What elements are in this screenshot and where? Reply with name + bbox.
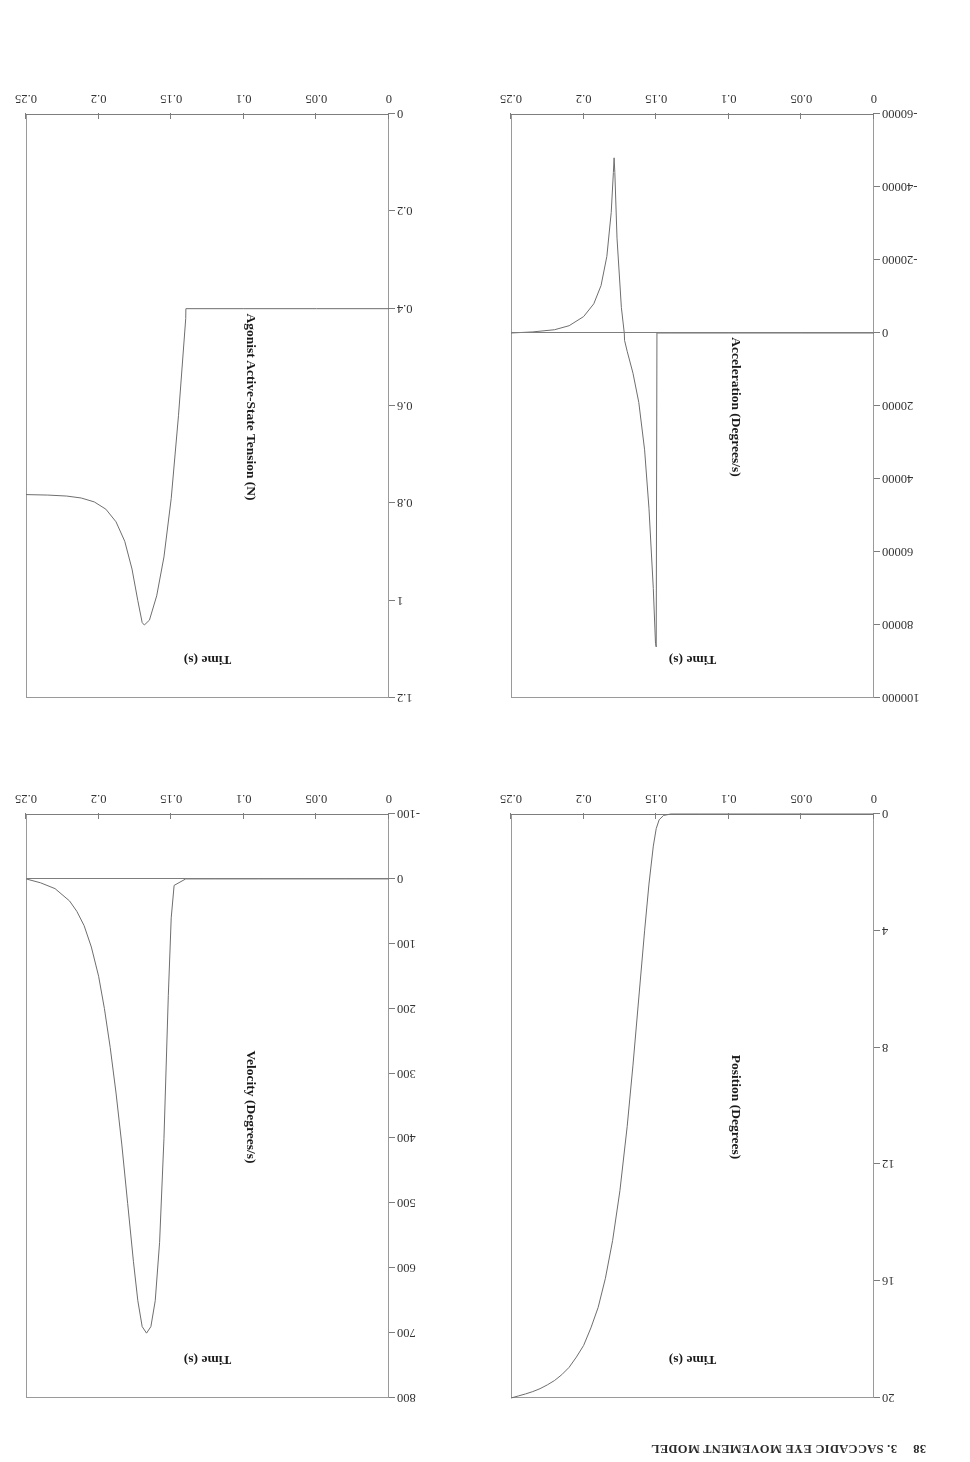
x-tick-label: 0 [386, 791, 392, 806]
plot-area-position: 00.050.10.150.20.25 048121620 Time (s) P… [511, 814, 874, 1398]
plot-area-agonist-tension: 00.050.10.150.20.25 00.20.40.60.811.2 Ti… [26, 114, 389, 698]
y-tick [389, 502, 395, 503]
plot-area-acceleration: 00.050.10.150.20.25 -60000-40000-2000002… [511, 114, 874, 698]
x-axis-title: Time (s) [511, 652, 874, 668]
x-tick [315, 113, 316, 119]
x-tick-label: 0.2 [91, 91, 107, 106]
y-tick [874, 1280, 880, 1281]
y-tick-label: 4 [882, 923, 960, 938]
x-tick-label: 0.2 [576, 91, 592, 106]
figure-grid: 00.050.10.150.20.25 048121620 Time (s) P… [0, 28, 970, 1428]
y-tick-label: 0 [882, 326, 960, 341]
x-tick [170, 113, 171, 119]
y-tick [874, 478, 880, 479]
y-tick-label: -40000 [882, 180, 960, 195]
x-tick [800, 813, 801, 819]
y-tick-label: 60000 [882, 545, 960, 560]
x-tick [25, 113, 26, 119]
y-tick [874, 1047, 880, 1048]
y-tick-label: 700 [397, 1326, 475, 1341]
y-tick-label: -20000 [882, 253, 960, 268]
y-tick-label: 400 [397, 1131, 475, 1146]
y-tick [389, 113, 395, 114]
y-tick [874, 697, 880, 698]
y-tick [389, 1397, 395, 1398]
y-tick-label: 8 [882, 1040, 960, 1055]
x-tick [655, 113, 656, 119]
y-tick-label: 300 [397, 1066, 475, 1081]
x-axis-title: Time (s) [26, 652, 389, 668]
y-axis-title: Agonist Active-State Tension (N) [244, 0, 260, 907]
zero-line [26, 878, 389, 879]
y-tick [389, 1332, 395, 1333]
y-tick [389, 308, 395, 309]
x-tick [800, 113, 801, 119]
y-tick-label: 800 [397, 1391, 475, 1406]
y-tick [874, 813, 880, 814]
x-tick [655, 813, 656, 819]
x-tick [170, 813, 171, 819]
y-tick [874, 405, 880, 406]
y-tick [389, 1073, 395, 1074]
x-tick-label: 0 [386, 91, 392, 106]
x-tick [25, 813, 26, 819]
x-tick-label: 0.05 [305, 91, 327, 106]
y-tick [389, 600, 395, 601]
y-tick [389, 697, 395, 698]
scanned-page: 383. SACCADIC EYE MOVEMENT MODEL 00.050.… [0, 0, 970, 1462]
chart-agonist-tension: 00.050.10.150.20.25 00.20.40.60.811.2 Ti… [0, 28, 485, 728]
page-header-title: 3. SACCADIC EYE MOVEMENT MODEL [651, 1442, 897, 1456]
x-tick-label: 0.15 [645, 791, 667, 806]
page-header: 383. SACCADIC EYE MOVEMENT MODEL [46, 1438, 926, 1456]
y-tick [874, 259, 880, 260]
y-tick-label: -60000 [882, 107, 960, 122]
x-tick [315, 813, 316, 819]
chart-acceleration: 00.050.10.150.20.25 -60000-40000-2000002… [485, 28, 970, 728]
x-tick-label: 0.25 [500, 791, 522, 806]
y-tick [874, 551, 880, 552]
x-tick [510, 113, 511, 119]
y-tick-label: 0.8 [397, 496, 475, 511]
y-tick [389, 1267, 395, 1268]
chart-cell-agonist-tension: 00.050.10.150.20.25 00.20.40.60.811.2 Ti… [0, 28, 485, 728]
y-tick [389, 210, 395, 211]
x-tick-label: 0 [871, 791, 877, 806]
position-curve [511, 814, 874, 1398]
x-tick-label: 0.05 [790, 91, 812, 106]
y-tick-label: 600 [397, 1261, 475, 1276]
x-tick-label: 0.25 [15, 791, 37, 806]
x-tick-label: 0.15 [160, 791, 182, 806]
y-tick [874, 113, 880, 114]
agonist-tension-curve [26, 114, 389, 698]
y-tick-label: 500 [397, 1196, 475, 1211]
x-tick-label: 0.2 [576, 791, 592, 806]
x-tick-label: 0.15 [645, 91, 667, 106]
x-axis-title: Time (s) [511, 1352, 874, 1368]
chart-cell-acceleration: 00.050.10.150.20.25 -60000-40000-2000002… [485, 28, 970, 728]
y-tick [389, 1008, 395, 1009]
y-tick [874, 186, 880, 187]
y-tick-label: 0.2 [397, 204, 475, 219]
y-tick-label: 100 [397, 936, 475, 951]
x-tick [510, 813, 511, 819]
y-tick-label: 20000 [882, 399, 960, 414]
y-tick [874, 1397, 880, 1398]
y-axis-title: Acceleration (Degrees/s) [729, 0, 745, 907]
y-tick [874, 930, 880, 931]
y-tick-label: 0 [882, 807, 960, 822]
y-tick [389, 405, 395, 406]
y-tick-label: 100000 [882, 691, 960, 706]
x-tick-label: 0.05 [305, 791, 327, 806]
y-tick-label: 200 [397, 1001, 475, 1016]
page-number: 38 [913, 1442, 926, 1456]
x-tick [98, 113, 99, 119]
x-tick-label: 0.15 [160, 91, 182, 106]
y-tick-label: 40000 [882, 472, 960, 487]
y-tick-label: 16 [882, 1274, 960, 1289]
y-tick [389, 1137, 395, 1138]
y-tick [389, 878, 395, 879]
y-tick-label: 0.6 [397, 399, 475, 414]
y-tick-label: 1.2 [397, 691, 475, 706]
x-tick [583, 813, 584, 819]
plot-area-velocity: 00.050.10.150.20.25 -1000100200300400500… [26, 814, 389, 1398]
